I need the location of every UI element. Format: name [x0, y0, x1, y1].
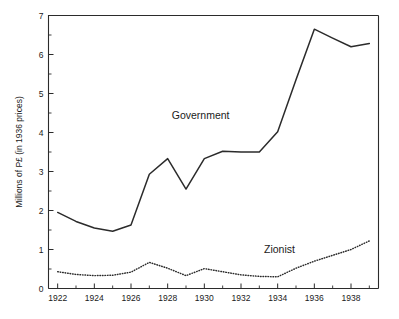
- y-tick-label: 2: [39, 206, 44, 216]
- x-tick-label: 1932: [232, 293, 251, 303]
- chart-container: 01234567 1922192419261928193019321934193…: [0, 0, 399, 319]
- x-tick-label: 1934: [268, 293, 287, 303]
- y-tick-label: 4: [39, 128, 44, 138]
- y-tick-label: 1: [39, 245, 44, 255]
- y-tick-label: 0: [39, 284, 44, 294]
- x-tick-label: 1938: [342, 293, 361, 303]
- y-tick-label: 6: [39, 50, 44, 60]
- x-tick-label: 1922: [48, 293, 67, 303]
- x-tick-label: 1936: [305, 293, 324, 303]
- y-tick-label: 7: [39, 11, 44, 21]
- y-tick-label: 5: [39, 89, 44, 99]
- y-tick-label: 3: [39, 167, 44, 177]
- x-tick-label: 1930: [195, 293, 214, 303]
- x-tick-label: 1924: [85, 293, 104, 303]
- series-label-government: Government: [172, 109, 230, 121]
- series-label-zionist: Zionist: [264, 243, 295, 255]
- line-chart-figure: 01234567 1922192419261928193019321934193…: [0, 0, 399, 319]
- x-tick-label: 1928: [158, 293, 177, 303]
- x-tick-label: 1926: [122, 293, 141, 303]
- y-axis-title: Millions of P£ (in 1936 prices): [14, 96, 24, 208]
